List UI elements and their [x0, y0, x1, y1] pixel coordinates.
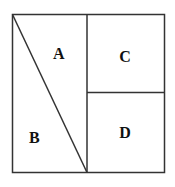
region-label-d: D [119, 124, 131, 141]
diagonal-divider [13, 15, 88, 173]
outer-square [13, 15, 165, 173]
diagram-canvas: A B C D [0, 0, 175, 187]
region-label-a: A [53, 45, 65, 62]
region-label-c: C [119, 48, 131, 65]
region-label-b: B [29, 129, 40, 146]
